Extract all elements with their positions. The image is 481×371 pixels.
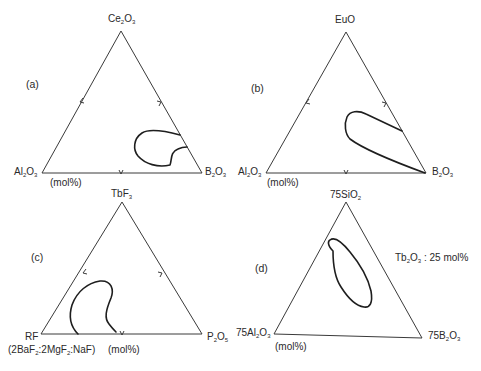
panel-d-triangle [274, 202, 422, 338]
panel-b-tag: (b) [251, 82, 264, 94]
panel-a-triangle [42, 31, 202, 173]
panel-a-diagram [42, 31, 202, 174]
panel-c-left-arrow-tick [83, 269, 87, 274]
panel-d-fixed-composition-note: Tb2O3 : 25 mol% [395, 252, 468, 264]
panel-b-left-component: Al2O3 [238, 166, 261, 178]
panel-a-right-arrow-tick [157, 101, 161, 106]
panel-b-triangle [266, 32, 426, 173]
panel-b-glass-region [345, 112, 425, 173]
panel-b-right-arrow-tick [382, 102, 386, 107]
panel-a-top-component: Ce2O3 [108, 13, 135, 25]
panel-c-tag: (c) [31, 251, 43, 263]
panel-d-glass-region [328, 239, 371, 307]
panel-c-diagram [41, 202, 202, 335]
panel-a-unit-label: (mol%) [50, 177, 82, 189]
panel-c-left-component: RF [25, 331, 38, 343]
panel-d-unit-label: (mol%) [275, 341, 307, 353]
panel-a-right-component: B2O3 [205, 166, 226, 178]
panel-a-glass-region [135, 130, 187, 166]
panel-d-right-component: 75B2O3 [428, 330, 460, 342]
panel-a-tag: (a) [26, 78, 39, 90]
panel-b-unit-label: (mol%) [267, 177, 299, 189]
panel-b-top-component: EuO [335, 14, 355, 26]
panel-d-left-component: 75Al2O3 [236, 327, 270, 339]
panel-b-right-component: B2O3 [432, 166, 453, 178]
panel-a-left-component: Al2O3 [14, 166, 37, 178]
panel-d-tag: (d) [255, 262, 268, 274]
panel-c-triangle [41, 202, 202, 334]
panel-b-left-arrow-tick [306, 99, 310, 104]
panel-c-right-component: P2O5 [207, 331, 228, 343]
panel-c-top-component: TbF3 [111, 188, 132, 200]
panel-d-top-component: 75SiO2 [330, 189, 361, 201]
panel-c-unit-label: (mol%) [108, 344, 140, 356]
panel-c-glass-region [70, 281, 116, 334]
panel-c-right-arrow-tick [158, 272, 162, 277]
panel-b-diagram [266, 32, 426, 174]
panel-c-left-composition-note: (2BaF2:2MgF2:NaF) [8, 344, 95, 356]
panel-d-diagram [274, 202, 422, 338]
